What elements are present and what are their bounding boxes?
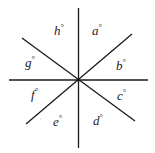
stray-dot [40,118,41,119]
angle-label-d: d° [93,112,104,128]
angle-label-g: g° [25,54,36,70]
angle-label-a: a° [92,22,103,38]
angle-label-c: c° [117,87,127,103]
angle-label-e: e° [53,113,63,129]
intersection-point [77,78,80,81]
angle-diagram: a° b° c° d° e° f° g° h° [0,0,155,153]
angle-label-f: f° [31,86,39,102]
angle-label-b: b° [116,57,127,73]
angle-label-h: h° [54,22,65,38]
